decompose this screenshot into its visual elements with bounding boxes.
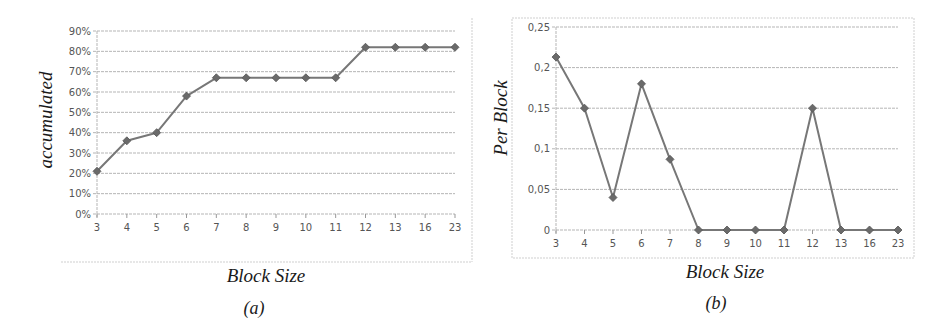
y-tick-label: 80% bbox=[69, 46, 91, 57]
x-tick-label: 13 bbox=[389, 222, 402, 233]
x-tick-label: 6 bbox=[183, 222, 189, 233]
x-tick-label: 3 bbox=[553, 238, 559, 249]
data-point-marker bbox=[780, 226, 788, 234]
data-point-marker bbox=[809, 104, 817, 112]
data-point-marker bbox=[552, 53, 560, 61]
x-tick-label: 11 bbox=[329, 222, 342, 233]
data-point-marker bbox=[302, 74, 310, 82]
y-tick-label: 0 bbox=[544, 225, 550, 236]
x-tick-label: 9 bbox=[724, 238, 730, 249]
y-tick-label: 50% bbox=[69, 107, 91, 118]
x-tick-label: 12 bbox=[806, 238, 819, 249]
data-point-marker bbox=[581, 104, 589, 112]
x-tick-label: 16 bbox=[419, 222, 432, 233]
y-tick-label: 90% bbox=[69, 26, 91, 37]
panel-b-y-tick-labels: 00,050,10,150,20,25 bbox=[528, 22, 550, 236]
y-tick-label: 0,05 bbox=[528, 184, 550, 195]
panel-b-caption: (b) bbox=[706, 293, 727, 314]
y-tick-label: 0,15 bbox=[528, 103, 550, 114]
x-tick-label: 11 bbox=[778, 238, 791, 249]
data-point-marker bbox=[866, 226, 874, 234]
data-point-marker bbox=[391, 43, 399, 51]
x-tick-label: 5 bbox=[610, 238, 616, 249]
x-tick-label: 8 bbox=[695, 238, 701, 249]
data-point-marker bbox=[666, 155, 674, 163]
panel-b-gridlines bbox=[552, 27, 898, 234]
panel-b-x-axis-title: Block Size bbox=[686, 261, 765, 282]
y-tick-label: 70% bbox=[69, 66, 91, 77]
panel-a-x-tick-labels: 3456789101112131623 bbox=[94, 222, 462, 233]
panel-a-caption: (a) bbox=[244, 298, 265, 319]
x-tick-label: 23 bbox=[449, 222, 462, 233]
chart-panel-a: 0%10%20%30%40%50%60%70%80%90% 3456789101… bbox=[35, 18, 472, 319]
x-tick-label: 8 bbox=[243, 222, 249, 233]
x-tick-label: 6 bbox=[638, 238, 644, 249]
x-tick-label: 4 bbox=[581, 238, 587, 249]
x-tick-label: 4 bbox=[124, 222, 130, 233]
x-tick-label: 7 bbox=[667, 238, 673, 249]
panel-a-y-axis-title: accumulated bbox=[35, 71, 56, 169]
y-tick-label: 20% bbox=[69, 168, 91, 179]
data-point-marker bbox=[242, 74, 250, 82]
x-tick-label: 13 bbox=[835, 238, 848, 249]
x-tick-label: 23 bbox=[892, 238, 905, 249]
x-tick-label: 10 bbox=[749, 238, 762, 249]
panel-b-x-tick-labels: 3456789101112131623 bbox=[553, 238, 905, 249]
panel-a-markers bbox=[93, 43, 459, 175]
y-tick-label: 60% bbox=[69, 87, 91, 98]
panel-a-gridlines bbox=[93, 31, 455, 218]
x-tick-label: 7 bbox=[213, 222, 219, 233]
y-tick-label: 0,1 bbox=[534, 143, 550, 154]
y-tick-label: 40% bbox=[69, 127, 91, 138]
y-tick-label: 30% bbox=[69, 148, 91, 159]
y-tick-label: 10% bbox=[69, 188, 91, 199]
panel-b-y-axis-title: Per Block bbox=[490, 80, 511, 157]
data-point-marker bbox=[272, 74, 280, 82]
data-point-marker bbox=[609, 194, 617, 202]
panel-a-x-axis-title: Block Size bbox=[227, 265, 306, 286]
x-tick-label: 16 bbox=[863, 238, 876, 249]
panel-b-markers bbox=[552, 53, 902, 234]
x-tick-label: 5 bbox=[153, 222, 159, 233]
figure-canvas: 0%10%20%30%40%50%60%70%80%90% 3456789101… bbox=[0, 0, 948, 332]
data-point-marker bbox=[451, 43, 459, 51]
y-tick-label: 0% bbox=[75, 209, 91, 220]
data-point-marker bbox=[421, 43, 429, 51]
data-point-marker bbox=[752, 226, 760, 234]
panel-b-frame bbox=[512, 18, 914, 258]
data-point-marker bbox=[837, 226, 845, 234]
data-point-marker bbox=[695, 226, 703, 234]
y-tick-label: 0,2 bbox=[534, 62, 550, 73]
panel-b-series-line bbox=[556, 57, 898, 230]
data-point-marker bbox=[638, 80, 646, 88]
x-tick-label: 10 bbox=[299, 222, 312, 233]
x-tick-label: 9 bbox=[273, 222, 279, 233]
y-tick-label: 0,25 bbox=[528, 22, 550, 33]
data-point-marker bbox=[894, 226, 902, 234]
x-tick-label: 3 bbox=[94, 222, 100, 233]
x-tick-label: 12 bbox=[359, 222, 372, 233]
data-point-marker bbox=[723, 226, 731, 234]
panel-a-y-tick-labels: 0%10%20%30%40%50%60%70%80%90% bbox=[69, 26, 91, 220]
chart-panel-b: 00,050,10,150,20,25 3456789101112131623 … bbox=[490, 18, 914, 314]
